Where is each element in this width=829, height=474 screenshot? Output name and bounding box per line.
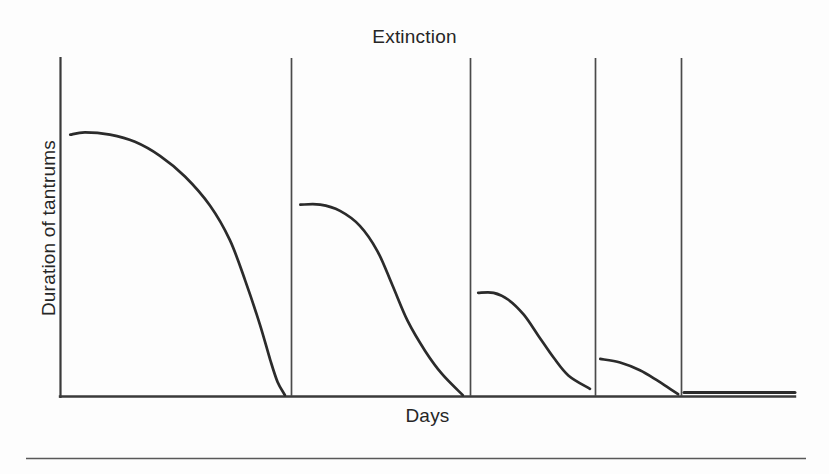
curve-layer (70, 132, 795, 395)
figure-container: Extinction Days Duration of tantrums (0, 0, 829, 474)
curve-session-1 (70, 132, 285, 395)
curve-session-3 (478, 292, 590, 388)
chart-title: Extinction (0, 26, 829, 48)
x-axis-label: Days (60, 405, 795, 427)
y-axis-label: Duration of tantrums (38, 58, 60, 398)
extinction-chart-svg (0, 0, 829, 474)
curve-session-2 (300, 204, 462, 395)
curve-session-4 (600, 359, 678, 394)
